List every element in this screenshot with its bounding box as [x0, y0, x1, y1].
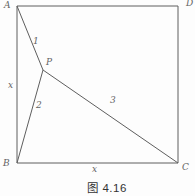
- segment-AP: [17, 6, 43, 70]
- side-label-0: x: [8, 80, 13, 90]
- side-label-1: x: [92, 164, 97, 174]
- figure-page: 123ADBCPxx 图 4.16: [0, 0, 195, 196]
- square-outline: [17, 6, 178, 163]
- vertex-label-B: B: [2, 158, 10, 168]
- segment-PB: [17, 70, 43, 163]
- segment-label-1: 1: [33, 36, 39, 46]
- vertex-label-A: A: [3, 0, 11, 10]
- segment-label-3: 3: [110, 95, 116, 105]
- geometry-figure: 123ADBCPxx: [0, 0, 195, 196]
- segment-label-2: 2: [35, 100, 42, 110]
- vertex-label-D: D: [185, 0, 193, 8]
- vertex-label-C: C: [182, 162, 189, 172]
- vertex-label-P: P: [45, 57, 53, 67]
- segment-PC: [43, 70, 178, 163]
- figure-caption: 图 4.16: [87, 179, 127, 195]
